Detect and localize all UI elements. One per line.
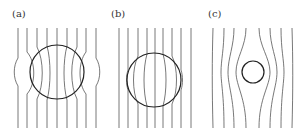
panel-c-field-lines [212,28,293,128]
panel-b-label: (b) [111,8,125,19]
panel-a: (a) [12,8,100,128]
panel-c: (c) [208,8,293,128]
field-lines-diagram: (a) (b) (c) [0,0,308,133]
panel-a-field-lines [14,28,100,128]
panel-c-sphere [242,61,264,83]
panel-b-field-lines [119,28,191,128]
panel-c-label: (c) [208,8,222,19]
panel-b: (b) [111,8,191,128]
panel-a-label: (a) [12,8,26,19]
panel-b-sphere [127,53,181,107]
